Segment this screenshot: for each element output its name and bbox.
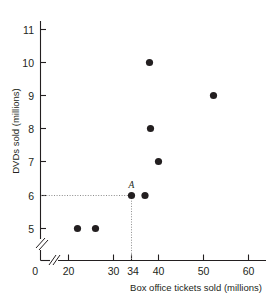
y-break-slash-1 — [36, 238, 45, 248]
x-tick-label-50: 50 — [198, 265, 210, 277]
x-tick-labels: 20 30 34 40 50 60 — [63, 265, 255, 277]
y-tick-label-0: 0 — [32, 265, 38, 277]
guide-lines-group — [41, 196, 132, 261]
y-tick-label-6: 6 — [28, 190, 34, 202]
x-tick-label-60: 60 — [243, 265, 255, 277]
y-tick-label-9: 9 — [28, 90, 34, 102]
y-tick-label-11: 11 — [23, 24, 34, 36]
data-point[interactable] — [141, 192, 148, 199]
data-point[interactable] — [146, 59, 153, 66]
x-tick-label-40: 40 — [153, 265, 165, 277]
data-point[interactable] — [147, 125, 154, 132]
x-tick-label-34: 34 — [127, 265, 139, 277]
point-a-label: A — [128, 180, 135, 190]
y-break-slash-2 — [39, 240, 48, 250]
y-tick-label-8: 8 — [28, 123, 34, 135]
data-points-group — [74, 59, 217, 232]
x-axis-title: Box office tickets sold (millions) — [130, 282, 262, 293]
x-tick-marks — [69, 255, 249, 261]
data-point[interactable] — [92, 225, 99, 232]
scatter-plot-figure: 11 10 9 8 7 6 5 0 20 30 34 40 50 60 — [0, 0, 273, 303]
y-tick-label-5: 5 — [28, 223, 34, 235]
y-axis-title: DVDs sold (millions) — [10, 88, 21, 174]
y-tick-label-10: 10 — [22, 57, 34, 69]
axes-group — [41, 21, 267, 261]
y-tick-marks — [41, 30, 47, 229]
x-break-slash-1 — [49, 255, 56, 265]
plot-canvas: 11 10 9 8 7 6 5 0 20 30 34 40 50 60 — [0, 0, 273, 303]
x-tick-label-30: 30 — [108, 265, 120, 277]
x-tick-label-20: 20 — [63, 265, 75, 277]
y-tick-labels: 11 10 9 8 7 6 5 0 — [22, 24, 38, 278]
y-tick-label-7: 7 — [28, 156, 34, 168]
data-point-a[interactable] — [128, 192, 135, 199]
data-point[interactable] — [210, 92, 217, 99]
data-point[interactable] — [74, 225, 81, 232]
data-point[interactable] — [155, 158, 162, 165]
